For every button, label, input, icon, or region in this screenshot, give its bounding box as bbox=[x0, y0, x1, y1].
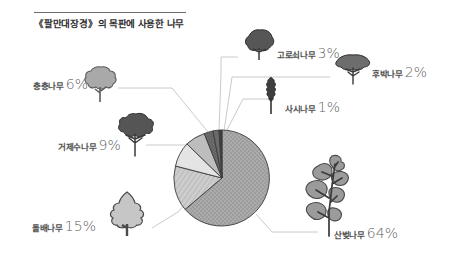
bushy-tree-icon bbox=[84, 64, 118, 104]
label-geojesu-percent: 9% bbox=[99, 137, 121, 153]
conical-tree-icon bbox=[106, 190, 148, 238]
label-gorosoe-percent: 3% bbox=[318, 45, 340, 61]
columnar-tree-icon bbox=[263, 76, 279, 116]
label-chungchung-percent: 6% bbox=[66, 76, 88, 92]
label-sasi: 사시나무 1% bbox=[285, 99, 340, 115]
label-geojesu: 거제수나무 9% bbox=[58, 137, 121, 153]
label-chungchung: 층층나무 6% bbox=[33, 76, 88, 92]
round-canopy-tree-icon bbox=[244, 28, 276, 62]
label-sanbeot-name: 산벚나무 bbox=[334, 228, 365, 240]
label-sasi-name: 사시나무 bbox=[285, 102, 316, 114]
label-chungchung-name: 층층나무 bbox=[33, 79, 64, 91]
label-geojesu-name: 거제수나무 bbox=[58, 140, 97, 152]
label-dolbae-name: 돌배나무 bbox=[32, 221, 63, 233]
label-sanbeot-percent: 64% bbox=[367, 225, 398, 241]
label-dolbae: 돌배나무 15% bbox=[32, 218, 96, 234]
label-gorosoe: 고로쇠나무 3% bbox=[277, 45, 340, 61]
label-sasi-percent: 1% bbox=[318, 99, 340, 115]
label-dolbae-percent: 15% bbox=[65, 218, 96, 234]
label-hubak-name: 후박나무 bbox=[372, 67, 403, 79]
label-hubak-percent: 2% bbox=[405, 64, 427, 80]
label-hubak: 후박나무 2% bbox=[372, 64, 427, 80]
label-sanbeot: 산벚나무 64% bbox=[334, 225, 398, 241]
label-gorosoe-name: 고로쇠나무 bbox=[277, 48, 316, 60]
branching-tree-icon bbox=[116, 112, 156, 158]
chart-canvas: 《팔만대장경》의 목판에 사용한 나무 bbox=[0, 0, 456, 263]
